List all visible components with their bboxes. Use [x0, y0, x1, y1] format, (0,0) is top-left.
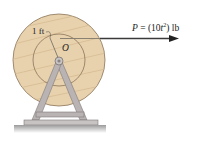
ground — [14, 125, 106, 133]
center-label: O — [62, 43, 69, 53]
radius-label: 1 ft — [32, 26, 44, 36]
force-label: P = (10t2) lb — [132, 22, 179, 33]
